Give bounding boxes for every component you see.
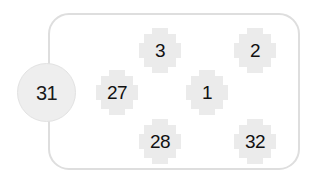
fuse-badge-label: 31 bbox=[36, 83, 57, 103]
fuse-tile-2[interactable]: 2 bbox=[234, 28, 276, 73]
fuse-tile-label: 28 bbox=[139, 119, 181, 164]
fuse-tile-label: 3 bbox=[139, 28, 181, 73]
fuse-tile-1[interactable]: 1 bbox=[186, 70, 228, 115]
fuse-tile-label: 27 bbox=[96, 70, 138, 115]
diagram-canvas: 31 3 2 27 1 bbox=[0, 0, 313, 193]
fuse-tile-28[interactable]: 28 bbox=[139, 119, 181, 164]
fuse-tile-label: 32 bbox=[234, 119, 276, 164]
fuse-tile-3[interactable]: 3 bbox=[139, 28, 181, 73]
fuse-tile-27[interactable]: 27 bbox=[96, 70, 138, 115]
fuse-badge-31[interactable]: 31 bbox=[17, 63, 76, 122]
fuse-tile-label: 1 bbox=[186, 70, 228, 115]
fuse-tile-32[interactable]: 32 bbox=[234, 119, 276, 164]
fuse-tile-label: 2 bbox=[234, 28, 276, 73]
